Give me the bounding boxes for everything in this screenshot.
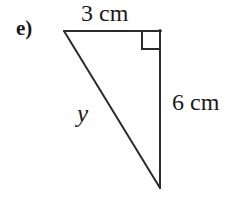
hypotenuse-variable-label: y — [77, 101, 88, 126]
top-side-length-label: 3 cm — [81, 1, 128, 25]
right-angle-marker-icon — [142, 31, 160, 49]
geometry-figure: e) 3 cm 6 cm y — [0, 0, 248, 198]
right-side-length-label: 6 cm — [172, 90, 219, 114]
item-label: e) — [16, 18, 32, 39]
